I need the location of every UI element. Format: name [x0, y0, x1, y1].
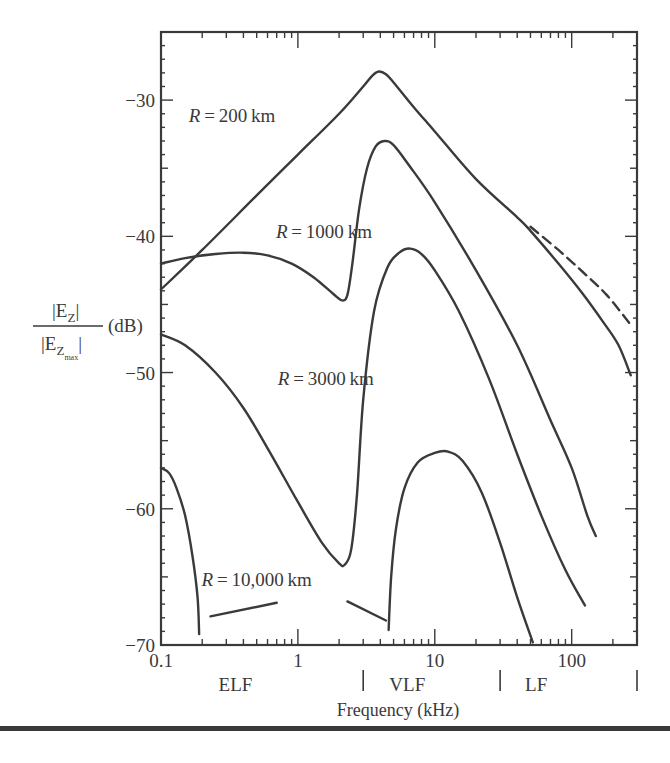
curve-label: R = 200 km — [188, 105, 276, 126]
curves — [161, 71, 631, 642]
y-label-denominator: |EZmax| — [41, 333, 82, 362]
x-tick-label: 1 — [293, 650, 303, 671]
curve-r-10-000-km-vlf-lobe — [389, 451, 533, 642]
bottom-rule — [0, 726, 670, 731]
curve-r-1000-km — [161, 141, 596, 536]
curve-r-10-000-km — [161, 468, 199, 634]
curve-label: R = 3000 km — [277, 368, 374, 389]
y-tick-label: −30 — [125, 90, 155, 111]
y-tick-label: −50 — [125, 363, 155, 384]
y-label-unit: (dB) — [108, 315, 143, 337]
x-tick-label: 0.1 — [149, 650, 173, 671]
curve-r-10-000-km-dashed-segment-2 — [347, 601, 386, 620]
curve-r-10-000-km-dashed-segment-1 — [211, 603, 277, 617]
curve-r-3000-km — [161, 249, 585, 606]
curve-label: R = 10,000 km — [201, 569, 312, 590]
band-label-vlf: VLF — [389, 674, 425, 695]
chart: −30−40−50−60−700.1110100ELFVLFLF R = 200… — [0, 0, 670, 763]
x-axis-label: Frequency (kHz) — [337, 700, 459, 721]
band-label-elf: ELF — [219, 674, 253, 695]
axis-ticks: −30−40−50−60−700.1110100ELFVLFLF — [125, 32, 637, 695]
x-tick-label: 100 — [557, 650, 586, 671]
curve-label: R = 1000 km — [275, 221, 372, 242]
y-label-numerator: |EZ| — [52, 300, 79, 325]
band-label-lf: LF — [525, 674, 547, 695]
y-axis-label: |EZ| |EZmax| (dB) — [33, 300, 143, 362]
x-tick-label: 10 — [425, 650, 444, 671]
curve-r-200-km-dashed-extension — [530, 227, 630, 325]
y-tick-label: −40 — [125, 226, 155, 247]
curve-labels: R = 200 kmR = 1000 kmR = 3000 kmR = 10,0… — [188, 105, 374, 591]
y-tick-label: −60 — [125, 499, 155, 520]
